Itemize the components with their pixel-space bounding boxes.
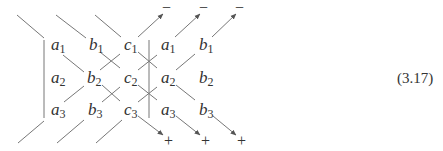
row-2: a2 b2 c2 a2 b2 — [51, 68, 214, 89]
svg-text:c2: c2 — [124, 68, 138, 89]
minus-sign-3: − — [235, 0, 244, 16]
svg-text:b3: b3 — [199, 100, 214, 121]
row-1: a1 b1 c1 a1 b1 — [51, 35, 214, 56]
plus-sign-1: + — [164, 132, 173, 149]
minus-sign-1: − — [162, 0, 171, 16]
sarrus-diagram: − − − + + + a1 b1 c1 a1 b1 a2 b2 c2 a2 b… — [0, 0, 443, 151]
svg-text:a3: a3 — [51, 100, 66, 121]
plus-sign-3: + — [237, 132, 246, 149]
svg-text:c3: c3 — [124, 100, 138, 121]
svg-text:b3: b3 — [88, 100, 103, 121]
svg-text:a1: a1 — [161, 35, 176, 56]
svg-text:b2: b2 — [87, 68, 102, 89]
svg-text:a3: a3 — [161, 100, 176, 121]
minus-sign-2: − — [199, 0, 208, 16]
svg-text:b1: b1 — [199, 35, 214, 56]
svg-text:c1: c1 — [124, 35, 138, 56]
svg-text:b1: b1 — [89, 35, 104, 56]
plus-sign-2: + — [201, 132, 210, 149]
svg-text:a2: a2 — [161, 68, 176, 89]
svg-text:a1: a1 — [51, 35, 66, 56]
equation-number: (3.17) — [397, 70, 433, 87]
svg-text:b2: b2 — [199, 68, 214, 89]
row-3: a3 b3 c3 a3 b3 — [51, 100, 214, 121]
svg-text:a2: a2 — [51, 68, 66, 89]
